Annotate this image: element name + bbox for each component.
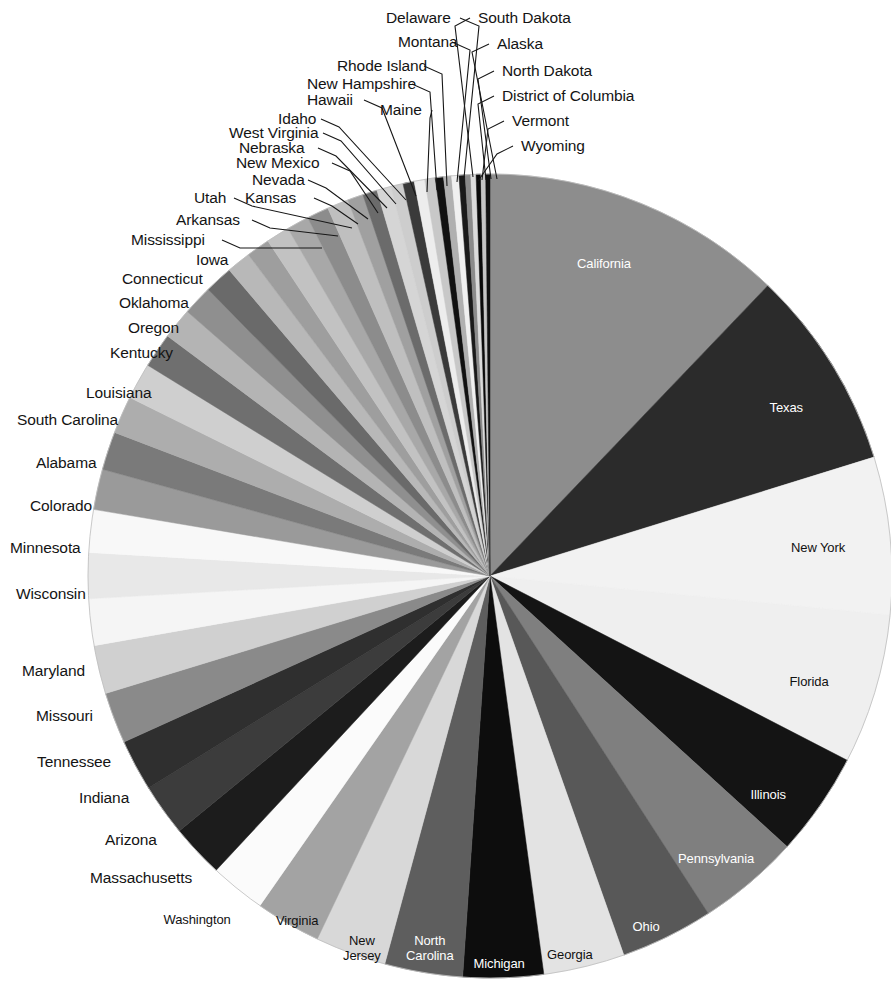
slice-label-connecticut: Connecticut bbox=[122, 271, 203, 287]
slice-label-massachusetts: Massachusetts bbox=[90, 870, 192, 886]
slice-label-montana: Montana bbox=[398, 34, 458, 50]
slice-label-hawaii: Hawaii bbox=[307, 92, 353, 108]
slice-label-north-dakota: North Dakota bbox=[502, 63, 592, 79]
slice-label-oklahoma: Oklahoma bbox=[119, 295, 189, 311]
slice-label-vermont: Vermont bbox=[512, 113, 569, 129]
slice-label-minnesota: Minnesota bbox=[10, 540, 81, 556]
slice-label-arizona: Arizona bbox=[105, 832, 157, 848]
slice-label-new-hampshire: New Hampshire bbox=[307, 76, 416, 92]
slice-label-texas: Texas bbox=[770, 401, 803, 415]
slice-label-nevada: Nevada bbox=[252, 172, 305, 188]
slice-label-south-carolina: South Carolina bbox=[17, 412, 118, 428]
slice-label-new-york: New York bbox=[791, 541, 845, 555]
slice-label-arkansas: Arkansas bbox=[176, 212, 240, 228]
slice-label-district-of-columbia: District of Columbia bbox=[502, 88, 634, 104]
slice-label-kansas: Kansas bbox=[245, 190, 296, 206]
slice-label-michigan: Michigan bbox=[474, 957, 525, 971]
slice-label-iowa: Iowa bbox=[196, 252, 228, 268]
slice-label-new-jersey: NewJersey bbox=[343, 933, 381, 963]
slice-label-alabama: Alabama bbox=[36, 455, 96, 471]
slice-label-pennsylvania: Pennsylvania bbox=[678, 852, 754, 866]
slice-label-illinois: Illinois bbox=[751, 788, 786, 802]
leader-new-hampshire bbox=[412, 84, 437, 190]
slice-label-north-carolina: NorthCarolina bbox=[406, 933, 454, 963]
slice-label-wyoming: Wyoming bbox=[521, 138, 585, 154]
slice-label-georgia: Georgia bbox=[547, 948, 593, 962]
pie-chart-figure: CaliforniaTexasNew YorkFloridaIllinoisPe… bbox=[0, 0, 891, 996]
slice-label-south-dakota: South Dakota bbox=[478, 10, 571, 26]
slice-label-oregon: Oregon bbox=[128, 320, 179, 336]
slice-label-delaware: Delaware bbox=[386, 10, 451, 26]
slice-label-florida: Florida bbox=[790, 675, 829, 689]
slice-label-mississippi: Mississippi bbox=[131, 232, 205, 248]
slice-label-virginia: Virginia bbox=[276, 914, 318, 928]
slice-label-new-mexico: New Mexico bbox=[236, 155, 319, 171]
slice-label-utah: Utah bbox=[194, 190, 226, 206]
slice-label-ohio: Ohio bbox=[633, 920, 660, 934]
slice-label-kentucky: Kentucky bbox=[110, 345, 173, 361]
slice-label-alaska: Alaska bbox=[497, 36, 543, 52]
slice-label-rhode-island: Rhode Island bbox=[337, 58, 427, 74]
leader-delaware bbox=[460, 18, 479, 178]
slice-label-missouri: Missouri bbox=[36, 708, 93, 724]
slice-label-indiana: Indiana bbox=[79, 790, 129, 806]
slice-label-tennessee: Tennessee bbox=[37, 754, 111, 770]
slice-label-washington: Washington bbox=[164, 913, 231, 927]
pie-slices-group bbox=[88, 174, 891, 978]
slice-label-maine: Maine bbox=[380, 102, 422, 118]
slice-label-louisiana: Louisiana bbox=[86, 385, 151, 401]
slice-label-maryland: Maryland bbox=[22, 663, 85, 679]
slice-label-colorado: Colorado bbox=[30, 498, 92, 514]
slice-label-california: California bbox=[577, 257, 631, 271]
leader-montana bbox=[452, 42, 470, 182]
slice-label-wisconsin: Wisconsin bbox=[16, 586, 86, 602]
